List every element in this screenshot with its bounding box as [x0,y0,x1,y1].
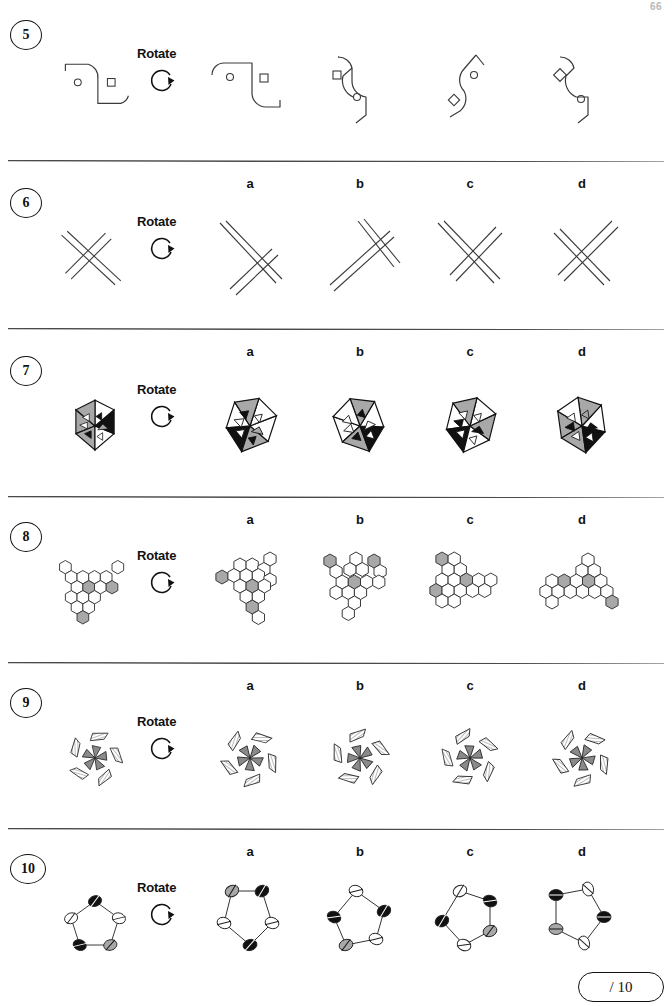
clockwise-rotate-arrow-icon [146,732,180,766]
question-7-option-a[interactable]: a [200,381,300,471]
question-8-target-figure [52,554,138,630]
rotate-label: Rotate [137,46,176,61]
question-7-option-d[interactable]: d [532,381,632,471]
question-7-option-c[interactable]: c [420,381,520,471]
question-10-option-d[interactable]: d [532,879,632,969]
question-5-target-figure [52,52,138,128]
question-number-badge: 9 [10,688,42,718]
option-figure [420,879,520,969]
option-figure [200,45,300,135]
question-6-option-d[interactable]: d [532,213,632,303]
clockwise-rotate-arrow-icon [146,232,180,266]
section-divider [8,496,664,498]
option-figure [532,713,632,803]
question-block-5: 5 Rotate a [0,0,672,165]
option-figure [310,381,410,471]
clockwise-rotate-arrow-icon [146,64,180,98]
question-5-option-b[interactable]: b [310,45,410,135]
score-label: / 10 [610,979,633,996]
question-9-option-c[interactable]: c [420,713,520,803]
question-5-option-d[interactable]: d [532,45,632,135]
option-figure [200,213,300,303]
question-5-option-c[interactable]: c [420,45,520,135]
option-figure [310,879,410,969]
question-block-10: 10 Rotate [0,834,672,999]
question-number-badge: 6 [10,188,42,218]
question-9-option-d[interactable]: d [532,713,632,803]
section-divider [8,662,664,664]
question-6-option-c[interactable]: c [420,213,520,303]
question-10-option-c[interactable]: c [420,879,520,969]
question-6-option-b[interactable]: b [310,213,410,303]
question-number-badge: 10 [10,854,46,884]
section-divider [8,328,664,330]
question-7-target-figure [52,388,138,464]
rotate-label: Rotate [137,214,176,229]
worksheet-page: 66 5 Rotate a [0,0,672,1006]
clockwise-rotate-arrow-icon [146,898,180,932]
question-block-9: 9 Rotate [0,668,672,833]
section-divider [8,828,664,830]
option-figure [532,547,632,637]
question-10-option-a[interactable]: a [200,879,300,969]
option-figure [200,547,300,637]
option-figure [200,879,300,969]
clockwise-rotate-arrow-icon [146,400,180,434]
option-figure [420,381,520,471]
question-5-option-a[interactable]: a [200,45,300,135]
question-8-option-a[interactable]: a [200,547,300,637]
option-figure [310,547,410,637]
question-number-badge: 5 [10,20,42,50]
question-8-option-b[interactable]: b [310,547,410,637]
question-number-badge: 8 [10,522,42,552]
option-figure [420,713,520,803]
score-box[interactable]: / 10 [578,972,664,1002]
question-9-option-a[interactable]: a [200,713,300,803]
rotate-label: Rotate [137,548,176,563]
question-block-8: 8 Rotate [0,502,672,667]
option-figure [200,713,300,803]
question-6-option-a[interactable]: a [200,213,300,303]
option-figure [420,547,520,637]
option-figure [310,213,410,303]
question-block-7: 7 Rotate [0,336,672,501]
option-figure [532,381,632,471]
rotate-label: Rotate [137,880,176,895]
rotate-label: Rotate [137,382,176,397]
question-number-badge: 7 [10,356,42,386]
option-figure [310,45,410,135]
question-6-target-figure [52,220,138,296]
option-figure [310,713,410,803]
question-10-target-figure [52,886,138,962]
question-block-6: 6 Rotate [0,168,672,333]
option-figure [532,213,632,303]
option-figure [420,45,520,135]
rotate-label: Rotate [137,714,176,729]
question-9-target-figure [52,720,138,796]
question-10-option-b[interactable]: b [310,879,410,969]
option-figure [420,213,520,303]
question-8-option-d[interactable]: d [532,547,632,637]
question-7-option-b[interactable]: b [310,381,410,471]
option-figure [200,381,300,471]
option-figure [532,879,632,969]
question-8-option-c[interactable]: c [420,547,520,637]
clockwise-rotate-arrow-icon [146,566,180,600]
question-9-option-b[interactable]: b [310,713,410,803]
option-figure [532,45,632,135]
section-divider [8,160,664,162]
